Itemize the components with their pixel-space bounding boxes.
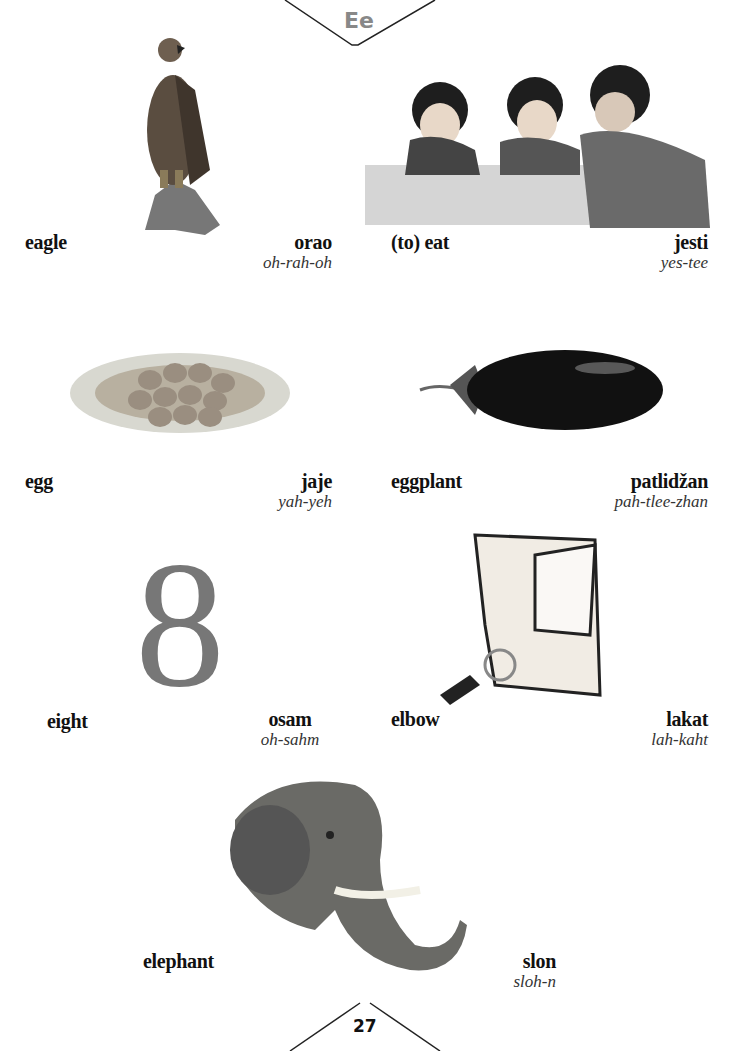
serbian-word: jesti xyxy=(560,231,708,253)
pronunciation: pah-tlee-zhan xyxy=(540,492,708,512)
pronunciation: lah-kaht xyxy=(560,730,708,750)
pronunciation: oh-sahm xyxy=(230,730,350,750)
page-number: 27 xyxy=(353,1016,377,1036)
section-letter: Ee xyxy=(344,8,374,33)
eggplant-illustration xyxy=(415,340,670,440)
english-word: eagle xyxy=(25,231,67,253)
serbian-word: orao xyxy=(200,231,332,253)
english-word: eggplant xyxy=(391,470,462,492)
elephant-illustration xyxy=(215,760,470,990)
number-eight-illustration: 8 xyxy=(125,545,235,695)
pronunciation: oh-rah-oh xyxy=(200,253,332,273)
eagle-illustration xyxy=(115,30,235,235)
serbian-word: jaje xyxy=(200,470,332,492)
english-word: (to) eat xyxy=(391,231,449,253)
english-word: egg xyxy=(25,470,53,492)
eggs-in-nest-illustration xyxy=(65,335,295,445)
serbian-word: slon xyxy=(470,950,556,972)
serbian-word: patlidžan xyxy=(540,470,708,492)
svg-text:8: 8 xyxy=(135,545,225,695)
english-word: elephant xyxy=(143,950,214,972)
children-eating-illustration xyxy=(365,50,715,230)
serbian-word: lakat xyxy=(560,708,708,730)
pronunciation: yes-tee xyxy=(560,253,708,273)
english-word: eight xyxy=(47,710,88,732)
pronunciation: sloh-n xyxy=(470,972,556,992)
serbian-word: osam xyxy=(240,708,340,730)
english-word: elbow xyxy=(391,708,440,730)
pronunciation: yah-yeh xyxy=(200,492,332,512)
elbow-illustration xyxy=(435,525,610,710)
